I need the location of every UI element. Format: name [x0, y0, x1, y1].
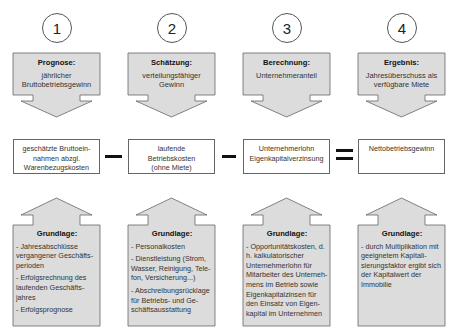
equation-line: laufende [129, 144, 214, 154]
top-callout-line: verfügbare Miete [358, 80, 445, 90]
equation-box-4: Nettobetriebsgewinn [358, 139, 445, 174]
step-number-2: 2 [157, 13, 187, 43]
top-callout-2: Schätzung: verteilungsfähiger Gewinn [128, 58, 215, 90]
equation-line: Warenbezugskosten [14, 163, 99, 173]
equation-line: Betriebskosten [129, 154, 214, 164]
top-callout-title: Prognose: [13, 58, 100, 68]
top-callout-3: Berechnung: Unternehmeranteil [243, 58, 330, 80]
top-callout-line: Gewinn [128, 80, 215, 90]
bottom-callout-title: Grundlage: [246, 229, 328, 239]
minus-operator [222, 155, 236, 158]
top-callout-1: Prognose: jährlicher Bruttobetriebsgewin… [13, 58, 100, 90]
equation-line: nahmen abzgl. [14, 154, 99, 164]
top-callout-title: Berechnung: [243, 58, 330, 68]
bottom-callout-item: - Personalkosten [131, 242, 213, 252]
equation-line: Unternehmerlohn [244, 144, 329, 154]
equation-box-2: laufende Betriebskosten (ohne Miete) [128, 139, 215, 174]
equation-line: Eigenkapitalverzinsung [244, 154, 329, 164]
bottom-callout-item: - Erfolgsprognose [16, 305, 98, 315]
top-callout-line: jährlicher [13, 71, 100, 81]
top-callout-line: Bruttobetriebsgewinn [13, 80, 100, 90]
bottom-callout-title: Grundlage: [131, 229, 213, 239]
equation-line: (ohne Miete) [129, 163, 214, 173]
equation-box-1: geschätzte Bruttoein- nahmen abzgl. Ware… [13, 139, 100, 174]
step-number-4: 4 [387, 13, 417, 43]
top-callout-line: Unternehmeranteil [243, 71, 330, 81]
bottom-callout-item: - Dienstleistung (Strom, Wasser, Reinigu… [131, 254, 213, 283]
bottom-callout-item: - Abschreibungsrücklage für Betriebs- un… [131, 286, 213, 315]
bottom-callout-3: Grundlage: - Opportunitätskosten, d. h. … [246, 229, 328, 321]
bottom-callout-item: - Opportunitätskosten, d. h. kalkulatori… [246, 242, 328, 319]
equals-operator-bottom [336, 157, 353, 160]
bottom-callout-item: - durch Multiplikation mit geeignetem Ka… [361, 242, 443, 290]
step-number-1: 1 [42, 13, 72, 43]
top-callout-line: verteilungsfähiger [128, 71, 215, 81]
bottom-callout-title: Grundlage: [361, 229, 443, 239]
minus-operator [105, 155, 122, 158]
bottom-callout-4: Grundlage: - durch Multiplikation mit ge… [361, 229, 443, 293]
top-callout-line: Jahresüberschuss als [358, 71, 445, 81]
equals-operator-top [336, 149, 353, 152]
equation-box-3: Unternehmerlohn Eigenkapitalverzinsung [243, 139, 330, 174]
top-callout-4: Ergebnis: Jahresüberschuss als verfügbar… [358, 58, 445, 90]
top-callout-title: Ergebnis: [358, 58, 445, 68]
bottom-callout-item: - Erfolgsrechnung des laufenden Geschäft… [16, 273, 98, 302]
bottom-callout-1: Grundlage: - Jahresabschlüsse vergangene… [16, 229, 98, 318]
top-callout-title: Schätzung: [128, 58, 215, 68]
bottom-callout-title: Grundlage: [16, 229, 98, 239]
step-number-3: 3 [272, 13, 302, 43]
bottom-callout-2: Grundlage: - Personalkosten - Dienstleis… [131, 229, 213, 318]
equation-line: geschätzte Bruttoein- [14, 144, 99, 154]
bottom-callout-item: - Jahresabschlüsse vergangener Geschäfts… [16, 242, 98, 271]
equation-line: Nettobetriebsgewinn [359, 144, 444, 154]
